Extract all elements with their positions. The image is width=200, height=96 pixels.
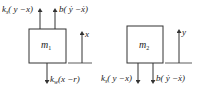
mass-2-subscript: 2 — [146, 45, 149, 51]
mass-2-label: m2 — [139, 39, 149, 51]
expr: (x −r) — [58, 74, 80, 84]
expr: ( y −x) — [8, 4, 33, 14]
force-kw-label-m1: kw(x −r) — [50, 74, 80, 87]
mass-1-subscript: 1 — [48, 45, 51, 51]
y-coordinate-label: y — [182, 27, 186, 37]
mass-1-label: m1 — [41, 39, 51, 51]
expr: ( ẏ −ẋ) — [64, 4, 89, 14]
expr: ( ẏ −ẋ) — [161, 73, 186, 83]
expr: ( y −x) — [107, 73, 132, 83]
x-coordinate-label: x — [85, 29, 89, 39]
force-b-label-m1: b( ẏ −ẋ) — [59, 4, 88, 14]
force-ks-label-m1: ks( y −x) — [2, 4, 33, 17]
force-b-label-m2: b( ẏ −ẋ) — [156, 73, 185, 83]
force-ks-label-m2: ks( y −x) — [101, 73, 132, 86]
free-body-diagram: m1 ks( y −x) b( ẏ −ẋ) kw(x −r) x m2 ks( … — [0, 0, 200, 96]
